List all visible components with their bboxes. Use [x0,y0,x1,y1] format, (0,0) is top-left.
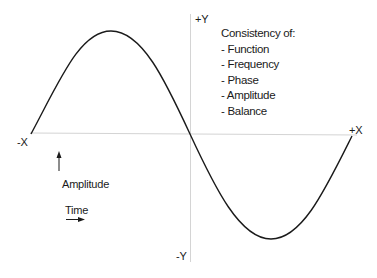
time-key-label: Time [65,204,88,216]
pos-x-label: +X [349,124,362,136]
legend-item-balance: - Balance [221,104,295,120]
neg-y-label: -Y [176,250,187,262]
neg-x-label: -X [17,136,28,148]
legend-title: Consistency of: [221,26,295,42]
legend-item-frequency: - Frequency [221,57,295,73]
pos-y-label: +Y [195,13,208,25]
legend-item-function: - Function [221,42,295,58]
x-axis [30,133,357,135]
amplitude-key-label: Amplitude [62,178,109,190]
legend-item-amplitude: - Amplitude [221,88,295,104]
time-arrowhead-icon [78,217,85,222]
legend: Consistency of: - Function - Frequency -… [221,26,295,119]
sine-diagram [0,0,377,278]
amplitude-arrowhead-icon [57,151,62,158]
legend-item-phase: - Phase [221,73,295,89]
